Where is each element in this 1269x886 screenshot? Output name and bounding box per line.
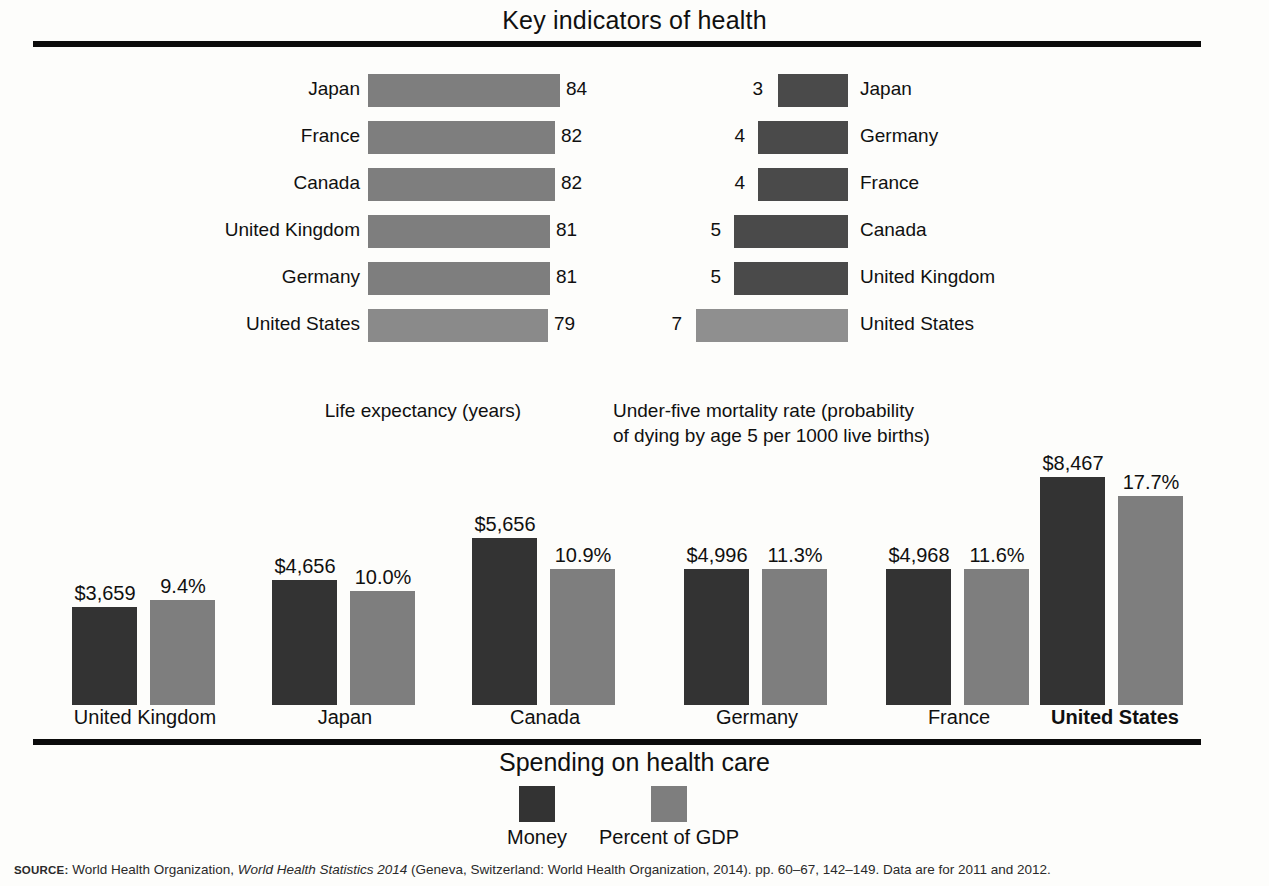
bar-column-money: $4,996	[684, 569, 749, 705]
bar-value-label: 10.0%	[328, 566, 438, 589]
bar-shape	[684, 569, 749, 705]
legend-label-money: Money	[499, 826, 575, 849]
bar-group: $5,656 10.9%	[472, 455, 617, 705]
bar-value-label: $5,656	[450, 513, 560, 536]
source-text-after: (Geneva, Switzerland: World Health Organ…	[407, 862, 1050, 877]
legend-swatch-money	[519, 786, 555, 822]
x-axis-label-united-states: United States	[1030, 706, 1200, 729]
page-title-bottom: Spending on health care	[0, 748, 1269, 777]
bar-shape	[734, 262, 848, 295]
page-title-top: Key indicators of health	[0, 6, 1269, 35]
bar-row: 5 United Kingdom	[0, 262, 1269, 309]
bar-value-label: 7	[637, 313, 682, 335]
bar-group: $4,656 10.0%	[272, 455, 417, 705]
bar-value-label: 17.7%	[1096, 471, 1206, 494]
bar-category-label: United States	[860, 313, 974, 335]
source-note: SOURCE: World Health Organization, World…	[14, 862, 1264, 877]
bar-value-label: 5	[676, 266, 721, 288]
bar-value-label: 3	[718, 78, 763, 100]
bar-category-label: United Kingdom	[860, 266, 995, 288]
x-axis-label-japan: Japan	[265, 706, 425, 729]
bar-column-gdp: 10.9%	[550, 569, 615, 705]
bar-shape	[762, 569, 827, 705]
bar-column-gdp: 11.6%	[964, 569, 1029, 705]
source-text-before: World Health Organization,	[68, 862, 237, 877]
bar-column-gdp: 9.4%	[150, 600, 215, 705]
bar-column-gdp: 10.0%	[350, 591, 415, 705]
bar-shape	[886, 569, 951, 705]
x-axis-label-canada: Canada	[465, 706, 625, 729]
chart-page: Key indicators of health Japan 84 France…	[0, 0, 1269, 886]
legend-label-gdp: Percent of GDP	[596, 826, 742, 849]
bar-value-label: 10.9%	[528, 544, 638, 567]
x-axis-label-germany: Germany	[677, 706, 837, 729]
bar-category-label: Germany	[860, 125, 938, 147]
bar-shape	[964, 569, 1029, 705]
bar-value-label: 9.4%	[128, 575, 238, 598]
bar-shape	[696, 309, 848, 342]
bar-category-label: Japan	[860, 78, 912, 100]
source-prefix: SOURCE:	[14, 864, 68, 876]
bar-shape	[272, 580, 337, 705]
bottom-divider-rule	[33, 739, 1201, 745]
bar-group: $4,968 11.6%	[886, 455, 1031, 705]
x-axis-label-france: France	[879, 706, 1039, 729]
bar-shape	[758, 168, 848, 201]
bar-shape	[350, 591, 415, 705]
bar-shape	[778, 74, 848, 107]
life-expectancy-caption: Life expectancy (years)	[283, 398, 563, 423]
caption-line-2: of dying by age 5 per 1000 live births)	[613, 425, 930, 446]
bar-column-money: $4,656	[272, 580, 337, 705]
bar-column-money: $8,467	[1040, 477, 1105, 705]
bar-shape	[734, 215, 848, 248]
bar-row: 5 Canada	[0, 215, 1269, 262]
bar-value-label: 5	[676, 219, 721, 241]
source-publication-title: World Health Statistics 2014	[238, 862, 408, 877]
bar-shape	[1040, 477, 1105, 705]
bar-column-gdp: 11.3%	[762, 569, 827, 705]
bar-shape	[72, 607, 137, 705]
caption-line-1: Under-five mortality rate (probability	[613, 400, 914, 421]
bar-group: $4,996 11.3%	[684, 455, 829, 705]
under-five-mortality-caption: Under-five mortality rate (probability o…	[613, 398, 1073, 448]
bar-row: 4 Germany	[0, 121, 1269, 168]
bar-shape	[1118, 496, 1183, 705]
bar-row: 3 Japan	[0, 74, 1269, 121]
bar-group: $8,467 17.7%	[1040, 455, 1185, 705]
bar-group: $3,659 9.4%	[72, 455, 217, 705]
bar-shape	[758, 121, 848, 154]
bar-value-label: 11.3%	[740, 544, 850, 567]
bar-column-gdp: 17.7%	[1118, 496, 1183, 705]
under-five-mortality-chart: 3 Japan 4 Germany 4 France 5 Canada 5 Un…	[0, 74, 1269, 356]
top-divider-rule	[33, 41, 1201, 47]
bar-shape	[550, 569, 615, 705]
bar-column-money: $3,659	[72, 607, 137, 705]
bar-value-label: 4	[700, 125, 745, 147]
bar-value-label: 4	[700, 172, 745, 194]
bar-category-label: France	[860, 172, 919, 194]
bar-row: 4 France	[0, 168, 1269, 215]
bar-row: 7 United States	[0, 309, 1269, 356]
bar-category-label: Canada	[860, 219, 927, 241]
x-axis-label-united-kingdom: United Kingdom	[60, 706, 230, 729]
legend-swatch-gdp	[651, 786, 687, 822]
bar-shape	[150, 600, 215, 705]
spending-chart: $3,659 9.4% $4,656 10.0% $5,656	[0, 455, 1269, 705]
bar-column-money: $4,968	[886, 569, 951, 705]
bar-value-label: 11.6%	[942, 544, 1052, 567]
